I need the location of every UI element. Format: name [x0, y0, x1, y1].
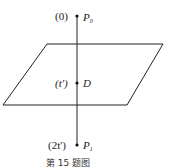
- param-p1: (2t'): [48, 139, 66, 152]
- label-p1: P1: [82, 139, 93, 152]
- label-d: D: [82, 77, 91, 89]
- param-d: (t'): [55, 77, 68, 90]
- point-d: [75, 81, 78, 84]
- diagram-canvas: (0) P0 (t') D (2t') P1 第 15 题图: [0, 0, 169, 168]
- point-p0: [75, 14, 78, 17]
- label-p0: P0: [82, 11, 93, 24]
- point-p1: [75, 143, 78, 146]
- caption: 第 15 题图: [46, 157, 90, 168]
- param-p0: (0): [55, 10, 68, 23]
- plane: [3, 44, 163, 105]
